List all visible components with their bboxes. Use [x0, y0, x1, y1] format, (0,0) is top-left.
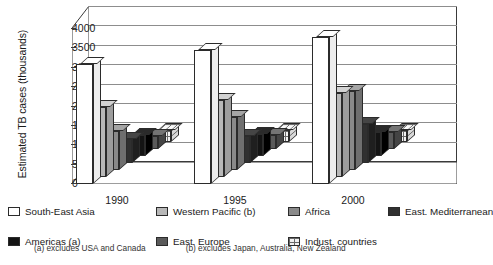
footnote-a: (a) excludes USA and Canada: [34, 243, 146, 253]
x-tick-label-1995: 1995: [200, 194, 270, 206]
bar-face: [76, 64, 93, 184]
bar-side: [211, 43, 219, 184]
bar-side: [119, 124, 127, 170]
legend-item-western-pacific-b[interactable]: Western Pacific (b): [156, 206, 256, 217]
bar-side: [93, 57, 101, 184]
bar-group-1995: [194, 6, 297, 184]
bar-1990-south-east-asia: [76, 64, 93, 184]
chart-footnotes: (a) excludes USA and Canada (b) excludes…: [34, 243, 346, 253]
bar-side: [342, 86, 350, 177]
bar-2000-south-east-asia: [312, 37, 329, 184]
bar-side: [224, 93, 232, 177]
bar-face: [194, 50, 211, 184]
bar-top: [198, 43, 223, 50]
legend-swatch-icon: [388, 207, 400, 216]
x-tick-label-1990: 1990: [82, 194, 152, 206]
legend-swatch-icon: [156, 207, 168, 216]
footnote-b: (b) excludes Japan, Australia, New Zeala…: [186, 243, 346, 253]
bar-side: [329, 30, 337, 184]
bar-side: [368, 117, 376, 163]
legend-row: South-East AsiaWestern Pacific (b)Africa…: [8, 206, 463, 221]
legend-item-east-mediterranean[interactable]: East. Mediterranean: [388, 206, 493, 217]
bar-1995-south-east-asia: [194, 50, 211, 184]
legend-item-africa[interactable]: Africa: [288, 206, 330, 217]
bar-top: [316, 30, 341, 37]
legend-item-south-east-asia[interactable]: South-East Asia: [8, 206, 95, 217]
x-tick-label-2000: 2000: [318, 194, 388, 206]
bar-side: [106, 100, 114, 177]
bar-group-2000: [312, 6, 415, 184]
legend-label: East. Mediterranean: [405, 206, 493, 217]
legend-swatch-icon: [8, 207, 20, 216]
bar-top: [80, 57, 105, 64]
legend-label: Africa: [305, 206, 330, 217]
legend-label: Western Pacific (b): [173, 206, 256, 217]
legend-swatch-icon: [8, 237, 20, 246]
bar-side: [237, 110, 245, 170]
chart-legend: South-East AsiaWestern Pacific (b)Africa…: [8, 206, 463, 236]
legend-label: South-East Asia: [25, 206, 95, 217]
bar-group-1990: [76, 6, 179, 184]
legend-row: Americas (a)East. EuropeIndust. countrie…: [8, 221, 463, 236]
legend-swatch-icon: [288, 207, 300, 216]
bar-face: [312, 37, 329, 184]
y-axis-title: Estimated TB cases (thousands): [16, 14, 28, 194]
plot-area: 05001000150020002500300035004000 1990199…: [72, 6, 457, 184]
bar-side: [355, 84, 363, 170]
